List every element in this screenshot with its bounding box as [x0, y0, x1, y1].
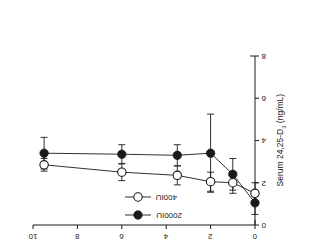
marker-filled-2000IU-4 [118, 150, 126, 158]
chart-figure-root: 0 2 4 6 8 10 0 2 4 6 8 Time (months) Ser… [0, 0, 313, 244]
y-tick-label-6: 6 [262, 94, 266, 103]
marker-open-400IU-5 [40, 161, 48, 169]
marker-open-400IU-3 [173, 171, 181, 179]
y-axis-title-main: Serum 24,25-D [275, 129, 285, 187]
legend-marker-400IU [134, 193, 142, 201]
x-tick-label-0: 0 [253, 232, 257, 241]
rotated-figure-container: 0 2 4 6 8 10 0 2 4 6 8 Time (months) Ser… [0, 0, 313, 244]
plot-area: 0 2 4 6 8 10 0 2 4 6 8 Time (months) Ser… [0, 0, 313, 244]
y-tick-label-4: 4 [262, 137, 266, 146]
y-axis-title-subscript: 3 [281, 126, 287, 129]
x-tick-label-2: 2 [208, 232, 212, 241]
marker-open-400IU-2 [206, 177, 214, 185]
y-axis-title-unit: (ng/mL) [275, 94, 285, 126]
legend-label-2000iu: 2000IU [156, 211, 182, 220]
x-tick-label-10: 10 [29, 232, 38, 241]
x-tick-label-6: 6 [119, 232, 123, 241]
y-axis-title: Serum 24,25-D3 (ng/mL) [275, 94, 287, 187]
x-tick-label-8: 8 [75, 232, 79, 241]
marker-filled-2000IU-5 [40, 149, 48, 157]
marker-filled-2000IU-3 [173, 151, 181, 159]
marker-open-400IU-1 [229, 179, 237, 187]
x-tick-label-4: 4 [164, 232, 168, 241]
series-line-2000IU [44, 153, 255, 203]
chart-canvas [0, 0, 313, 244]
y-tick-label-0: 0 [262, 221, 266, 230]
legend-marker-2000IU [134, 211, 142, 219]
marker-open-400IU-0 [251, 189, 259, 197]
legend-label-400iu: 400IU [156, 193, 177, 202]
marker-open-400IU-4 [118, 168, 126, 176]
y-tick-label-8: 8 [262, 52, 266, 61]
series-line-400IU [44, 165, 255, 194]
y-tick-label-2: 2 [262, 179, 266, 188]
marker-filled-2000IU-2 [206, 149, 214, 157]
